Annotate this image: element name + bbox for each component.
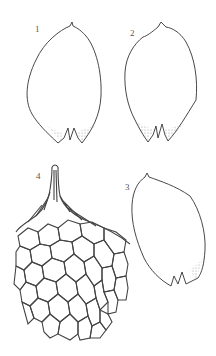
figure-4-cell-network xyxy=(14,165,130,340)
botanical-plate: 1 2 3 4 xyxy=(0,0,216,356)
illustration xyxy=(0,0,216,356)
figure-1-leaf xyxy=(27,22,101,143)
figure-3-leaf xyxy=(132,173,205,286)
figure-2-leaf xyxy=(125,22,197,142)
